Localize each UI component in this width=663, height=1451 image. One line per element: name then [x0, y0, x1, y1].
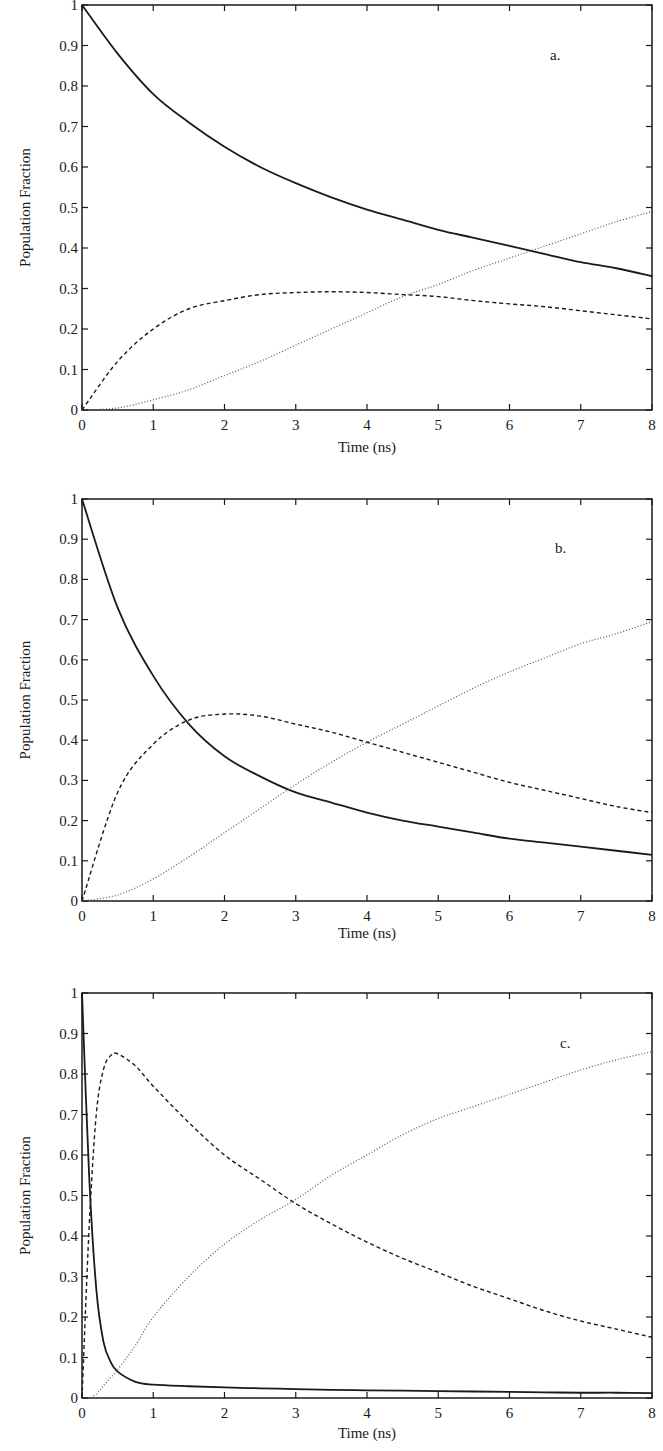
x-tick-label: 1: [150, 417, 158, 433]
y-tick-label: 0.3: [59, 281, 78, 297]
x-tick-label: 5: [435, 908, 443, 924]
plot-frame: [82, 499, 652, 901]
x-tick-label: 6: [506, 1405, 514, 1421]
y-tick-label: 0.4: [59, 1228, 78, 1244]
series-dashed-line: [82, 292, 652, 410]
y-tick-label: 0.5: [59, 1188, 78, 1204]
x-tick-label: 6: [506, 417, 514, 433]
y-tick-label: 0.6: [59, 159, 78, 175]
y-tick-label: 0.7: [59, 612, 78, 628]
x-axis-label: Time (ns): [338, 925, 396, 942]
x-tick-label: 0: [78, 1405, 86, 1421]
x-tick-label: 5: [435, 1405, 443, 1421]
series-solid-line: [82, 499, 652, 855]
y-tick-label: 0.9: [59, 1026, 78, 1042]
y-tick-label: 0.8: [59, 78, 78, 94]
x-axis-label: Time (ns): [338, 1425, 396, 1442]
y-tick-label: 0.8: [59, 571, 78, 587]
y-tick-label: 0: [71, 893, 79, 909]
x-tick-label: 1: [150, 1405, 158, 1421]
series-solid-line: [82, 5, 652, 276]
y-tick-label: 0.1: [59, 1350, 78, 1366]
y-tick-label: 0.9: [59, 531, 78, 547]
x-tick-label: 3: [292, 908, 300, 924]
y-tick-label: 0.2: [59, 1309, 78, 1325]
chart-panel-a: 01234567800.10.20.30.40.50.60.70.80.91Ti…: [0, 0, 663, 480]
x-tick-label: 6: [506, 908, 514, 924]
plot-frame: [82, 5, 652, 410]
y-tick-label: 0: [71, 1390, 79, 1406]
x-tick-label: 7: [577, 1405, 585, 1421]
y-tick-label: 0.3: [59, 772, 78, 788]
y-tick-label: 0: [71, 402, 79, 418]
series-dashed-line: [82, 714, 652, 901]
y-tick-label: 1: [71, 491, 79, 507]
x-tick-label: 4: [363, 1405, 371, 1421]
y-tick-label: 0.5: [59, 200, 78, 216]
x-tick-label: 8: [648, 417, 656, 433]
x-tick-label: 3: [292, 417, 300, 433]
x-tick-label: 2: [221, 908, 229, 924]
y-tick-label: 1: [71, 0, 79, 13]
x-tick-label: 7: [577, 908, 585, 924]
chart-panel-b: 01234567800.10.20.30.40.50.60.70.80.91Ti…: [0, 480, 663, 950]
y-tick-label: 0.2: [59, 813, 78, 829]
x-tick-label: 8: [648, 1405, 656, 1421]
series-solid-line: [82, 993, 652, 1393]
chart-panel-c: 01234567800.10.20.30.40.50.60.70.80.91Ti…: [0, 950, 663, 1451]
y-tick-label: 0.1: [59, 362, 78, 378]
plot-frame: [82, 993, 652, 1398]
chart-c-svg: 01234567800.10.20.30.40.50.60.70.80.91Ti…: [0, 950, 663, 1451]
chart-b-svg: 01234567800.10.20.30.40.50.60.70.80.91Ti…: [0, 480, 663, 950]
x-tick-label: 1: [150, 908, 158, 924]
chart-a-svg: 01234567800.10.20.30.40.50.60.70.80.91Ti…: [0, 0, 663, 480]
y-tick-label: 0.5: [59, 692, 78, 708]
x-tick-label: 4: [363, 417, 371, 433]
x-tick-label: 2: [221, 417, 229, 433]
y-axis-label: Population Fraction: [17, 1136, 33, 1255]
y-tick-label: 0.9: [59, 38, 78, 54]
x-tick-label: 3: [292, 1405, 300, 1421]
y-tick-label: 0.3: [59, 1269, 78, 1285]
y-tick-label: 0.2: [59, 321, 78, 337]
x-tick-label: 2: [221, 1405, 229, 1421]
y-tick-label: 0.1: [59, 853, 78, 869]
y-tick-label: 1: [71, 985, 79, 1001]
y-tick-label: 0.7: [59, 119, 78, 135]
series-dotted-line: [82, 212, 652, 410]
x-tick-label: 0: [78, 908, 86, 924]
y-axis-label: Population Fraction: [17, 148, 33, 267]
series-dashed-line: [82, 1053, 652, 1398]
y-tick-label: 0.8: [59, 1066, 78, 1082]
x-tick-label: 8: [648, 908, 656, 924]
panel-label: c.: [560, 1035, 570, 1051]
panel-label: a.: [550, 47, 560, 63]
x-tick-label: 5: [435, 417, 443, 433]
y-tick-label: 0.4: [59, 240, 78, 256]
panel-label: b.: [555, 540, 566, 556]
x-tick-label: 7: [577, 417, 585, 433]
x-tick-label: 0: [78, 417, 86, 433]
x-axis-label: Time (ns): [338, 439, 396, 456]
series-dotted-line: [82, 1052, 652, 1399]
y-axis-label: Population Fraction: [17, 640, 33, 759]
series-dotted-line: [82, 622, 652, 901]
x-tick-label: 4: [363, 908, 371, 924]
y-tick-label: 0.4: [59, 732, 78, 748]
y-tick-label: 0.7: [59, 1107, 78, 1123]
y-tick-label: 0.6: [59, 652, 78, 668]
y-tick-label: 0.6: [59, 1147, 78, 1163]
